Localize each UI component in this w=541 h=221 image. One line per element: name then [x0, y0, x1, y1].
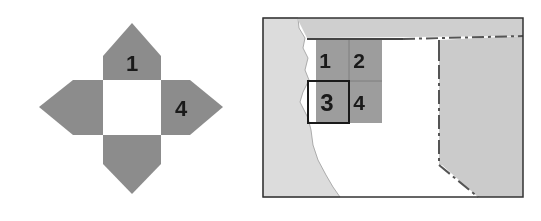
tile-map: 1 2 3 4 — [263, 18, 523, 197]
map-land-north — [297, 18, 523, 38]
net-label-4: 4 — [175, 96, 188, 121]
map-land-east — [439, 36, 523, 197]
net-center-square — [103, 80, 161, 135]
tile-grid: 1 2 3 4 — [308, 40, 382, 123]
diagram-canvas: 1 4 1 2 — [0, 0, 541, 221]
net-label-1: 1 — [126, 51, 138, 76]
pyramid-net: 1 4 — [39, 23, 223, 194]
tile-label-3: 3 — [320, 89, 333, 116]
tile-label-1: 1 — [319, 49, 331, 72]
tile-label-4: 4 — [353, 91, 365, 114]
tile-label-2: 2 — [353, 49, 365, 72]
